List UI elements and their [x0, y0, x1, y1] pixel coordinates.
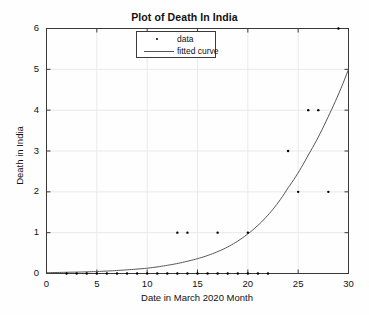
y-tick-label: 1 — [5, 226, 39, 237]
data-point — [227, 272, 229, 274]
data-point — [267, 272, 269, 274]
data-point — [216, 231, 218, 233]
data-point — [186, 231, 188, 233]
data-point — [206, 272, 208, 274]
data-point — [247, 231, 249, 233]
data-point — [176, 272, 178, 274]
data-point — [327, 191, 329, 193]
data-point — [237, 272, 239, 274]
x-tick-label: 20 — [233, 278, 263, 289]
data-point — [186, 272, 188, 274]
legend-label-data: data — [177, 34, 194, 44]
data-point — [65, 272, 67, 274]
gridlines-group — [47, 29, 349, 274]
data-point — [76, 272, 78, 274]
data-point — [337, 27, 339, 29]
y-tick-label: 2 — [5, 185, 39, 196]
y-tick-label: 3 — [5, 145, 39, 156]
x-tick-label: 5 — [82, 278, 112, 289]
legend-item-fitted-curve: fitted curve — [137, 45, 217, 58]
y-tick-label: 0 — [5, 267, 39, 278]
data-point — [126, 272, 128, 274]
x-tick-label: 10 — [132, 278, 162, 289]
data-point — [136, 272, 138, 274]
x-tick-label: 30 — [334, 278, 364, 289]
data-point — [317, 109, 319, 111]
y-tick-label: 4 — [5, 104, 39, 115]
data-point — [86, 272, 88, 274]
data-point — [216, 272, 218, 274]
data-point — [106, 272, 108, 274]
data-point — [297, 191, 299, 193]
data-point — [196, 272, 198, 274]
data-point — [96, 272, 98, 274]
x-tick-label: 25 — [283, 278, 313, 289]
chart-figure: Plot of Death In India Death in India Da… — [0, 0, 369, 315]
data-point — [146, 272, 148, 274]
x-tick-label: 15 — [183, 278, 213, 289]
data-point — [156, 272, 158, 274]
line-marker-icon — [141, 45, 175, 58]
data-point — [307, 109, 309, 111]
data-point — [257, 272, 259, 274]
data-point — [166, 272, 168, 274]
chart-legend[interactable]: data fitted curve — [136, 31, 216, 58]
y-tick-label: 5 — [5, 63, 39, 74]
legend-label-fitted-curve: fitted curve — [177, 46, 219, 56]
y-tick-label: 6 — [5, 22, 39, 33]
data-point — [247, 272, 249, 274]
data-point — [116, 272, 118, 274]
data-point — [287, 150, 289, 152]
x-tick-label: 0 — [32, 278, 62, 289]
data-point — [176, 231, 178, 233]
